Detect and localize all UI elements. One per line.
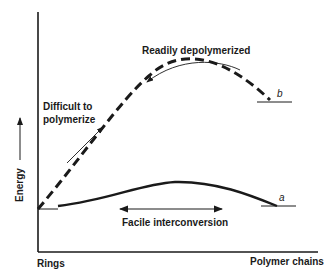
rings-label: Rings bbox=[37, 258, 65, 269]
polymer-chains-label: Polymer chains bbox=[250, 256, 324, 267]
facile-label: Facile interconversion bbox=[122, 217, 228, 228]
energy-axis-label: Energy bbox=[14, 168, 25, 202]
curve-b-label: b bbox=[277, 88, 283, 99]
readily-label: Readily depolymerized bbox=[142, 45, 250, 56]
difficult-label-1: Difficult to bbox=[43, 101, 92, 112]
polymerize-arrow-icon bbox=[67, 127, 103, 163]
difficult-label-2: polymerize bbox=[43, 114, 96, 125]
curve-b-dashed bbox=[38, 59, 270, 209]
curve-a-solid bbox=[58, 182, 277, 206]
energy-diagram: Energy Rings Polymer chains Difficult to… bbox=[0, 0, 329, 279]
curve-a-label: a bbox=[279, 192, 285, 203]
